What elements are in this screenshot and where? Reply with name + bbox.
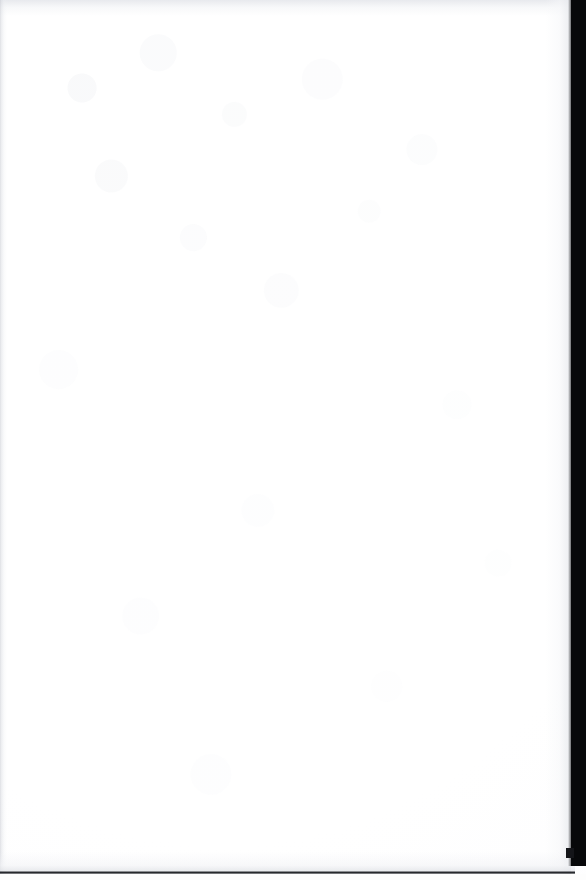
below-page-strip [0,874,586,880]
right-scan-band [571,0,586,866]
scanned-page: Blank page [0,0,586,880]
top-edge-shade [0,0,586,16]
left-gutter-line [0,0,7,880]
paper-texture-overlay [0,0,586,880]
bottom-edge-shade [0,852,575,871]
right-band-notch [566,848,574,858]
